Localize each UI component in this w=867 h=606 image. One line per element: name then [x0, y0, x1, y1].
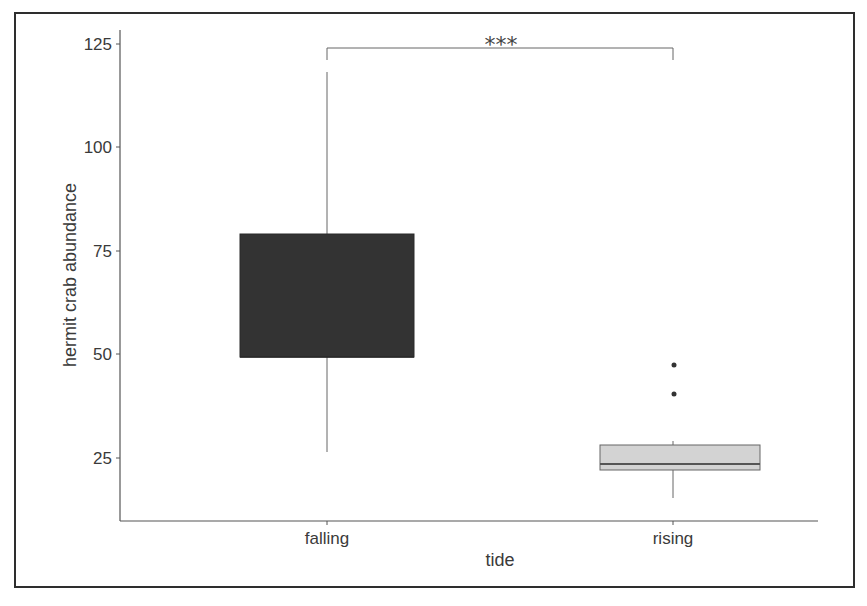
y-tick-label: 100 — [84, 138, 112, 157]
outlier-point — [672, 363, 677, 368]
box-rising — [600, 363, 760, 499]
x-axis-title: tide — [485, 550, 514, 570]
box-falling — [240, 72, 414, 452]
y-tick-label: 75 — [93, 242, 112, 261]
outlier-point — [672, 392, 677, 397]
y-tick-label: 25 — [93, 449, 112, 468]
y-tick-label: 50 — [93, 345, 112, 364]
x-tick-label-falling: falling — [305, 529, 349, 548]
x-tick-label-rising: rising — [653, 529, 694, 548]
x-axis-ticks: falling rising — [305, 521, 694, 548]
boxplot-chart: 125 100 75 50 25 falling rising tide her… — [0, 0, 867, 606]
significance-label: *** — [485, 32, 518, 57]
y-tick-label: 125 — [84, 35, 112, 54]
significance-bracket: *** — [327, 32, 673, 60]
iqr-box — [240, 234, 414, 357]
y-axis-ticks: 125 100 75 50 25 — [84, 35, 120, 468]
y-axis-title: hermit crab abundance — [60, 183, 80, 367]
iqr-box — [600, 445, 760, 470]
